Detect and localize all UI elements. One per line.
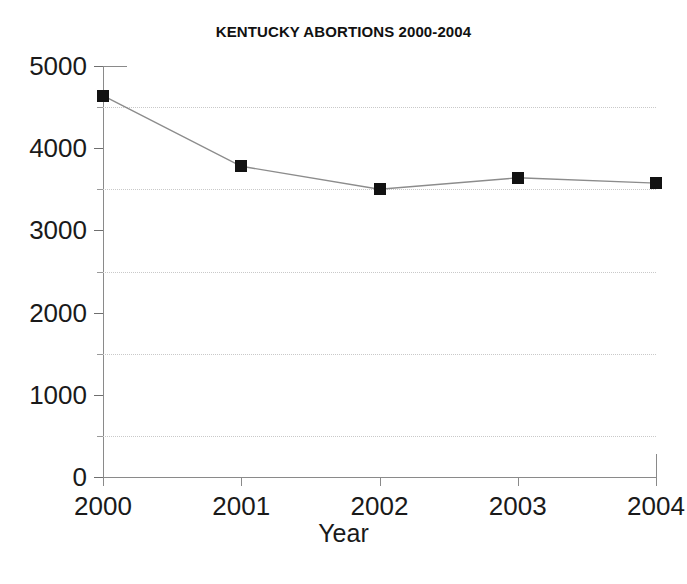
series-polyline [103, 96, 656, 190]
x-tick-label: 2003 [489, 493, 547, 519]
y-tick-major [94, 148, 103, 149]
x-tick [241, 477, 242, 486]
y-tick-major [94, 230, 103, 231]
y-tick-major [94, 66, 103, 67]
y-tick-major [94, 313, 103, 314]
x-tick [380, 477, 381, 486]
x-tick-label: 2004 [627, 493, 685, 519]
x-tick [656, 477, 657, 486]
data-point-marker [374, 183, 386, 195]
y-tick-major [94, 477, 103, 478]
y-tick-major [94, 395, 103, 396]
y-tick-label: 5000 [29, 53, 87, 79]
x-axis-title: Year [0, 519, 687, 548]
x-tick-label: 2002 [351, 493, 409, 519]
y-tick-label: 2000 [29, 300, 87, 326]
series-line [103, 66, 656, 477]
plot-area: 010002000300040005000 200020012002200320… [103, 66, 656, 477]
y-tick-label: 1000 [29, 382, 87, 408]
data-point-marker [512, 172, 524, 184]
plot-frame-right [656, 454, 657, 478]
y-tick-label: 3000 [29, 217, 87, 243]
data-point-marker [650, 177, 662, 189]
data-point-marker [97, 90, 109, 102]
y-tick-label: 0 [73, 464, 87, 490]
chart-title: KENTUCKY ABORTIONS 2000-2004 [0, 23, 687, 40]
x-tick-label: 2000 [74, 493, 132, 519]
data-point-marker [235, 160, 247, 172]
x-tick-label: 2001 [212, 493, 270, 519]
y-tick-label: 4000 [29, 135, 87, 161]
x-tick [103, 477, 104, 486]
x-tick [518, 477, 519, 486]
chart-container: KENTUCKY ABORTIONS 2000-2004 01000200030… [0, 0, 687, 584]
